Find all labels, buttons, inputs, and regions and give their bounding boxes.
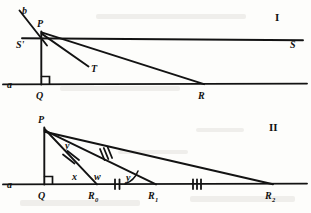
figure-two-label-q: Q (38, 190, 45, 201)
figure-one-right-angle-mark (42, 77, 50, 85)
figure-two-angle-label-y-at-r1: y (125, 172, 131, 183)
figure-one-line-a (3, 84, 307, 85)
figure-one-label-q: Q (36, 90, 43, 101)
figure-one-label-s: S (290, 39, 296, 50)
figure-two-label-a: a (7, 179, 12, 190)
figure-two-segment-pr2 (45, 132, 273, 184)
figure-one-label-s-prime: S' (16, 39, 25, 50)
figure-one-numeral: I (275, 11, 279, 23)
paper-smudges (20, 14, 295, 206)
figure-two-right-angle-mark (45, 177, 53, 185)
figure-two-label-r1: R (147, 190, 155, 201)
figure-plate: b P S' S T a Q R I (0, 0, 311, 213)
figure-one-label-p: P (37, 18, 44, 29)
figure-two: P a Q R 0 R 1 R 2 y x w y II (3, 114, 307, 203)
figure-two-angle-label-w: w (94, 171, 101, 182)
figure-two-angle-label-x: x (71, 171, 77, 182)
figure-two-numeral: II (269, 121, 278, 133)
figure-two-label-p: P (38, 114, 45, 125)
figure-one-label-r: R (197, 90, 205, 101)
figure-one-label-t: T (91, 63, 98, 74)
figure-two-angle-label-y-at-p: y (64, 140, 70, 151)
figure-one-label-b: b (22, 5, 27, 16)
figure-two-label-r1-subscript: 1 (155, 196, 158, 203)
figure-one-label-a: a (7, 79, 12, 90)
figure-two-label-r0: R (87, 190, 95, 201)
figure-canvas: b P S' S T a Q R I (0, 0, 311, 213)
figure-two-label-r2: R (264, 190, 272, 201)
